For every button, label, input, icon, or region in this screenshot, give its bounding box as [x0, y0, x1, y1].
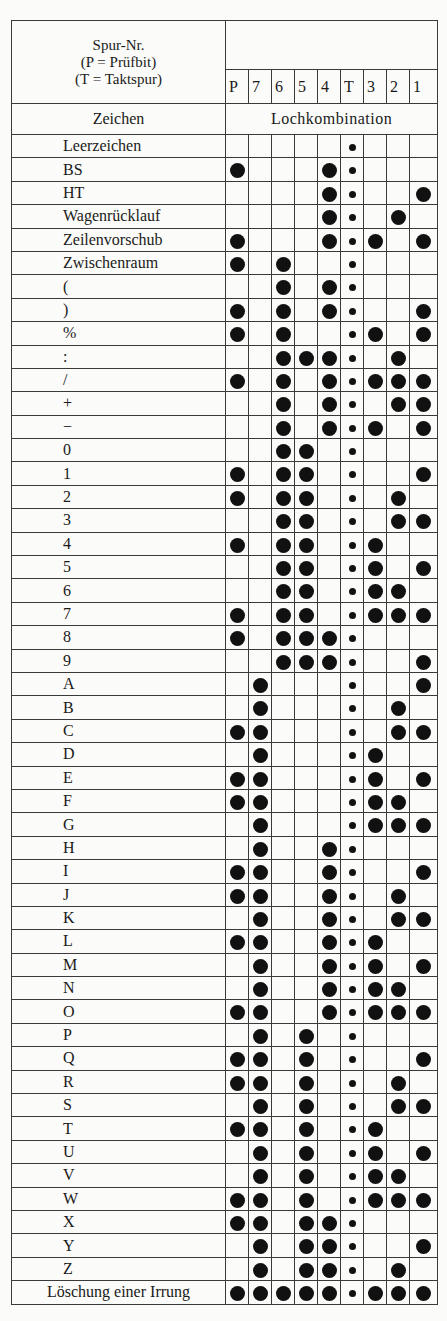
punched-hole-icon	[322, 304, 337, 319]
hole-cell-2	[387, 836, 410, 859]
feed-hole-icon	[349, 846, 356, 853]
hole-cell-p	[226, 860, 249, 883]
feed-hole-icon	[349, 448, 356, 455]
punched-hole-icon	[416, 1193, 431, 1208]
punched-hole-icon	[299, 444, 314, 459]
punched-hole-icon	[416, 397, 431, 412]
character-label: K	[12, 906, 226, 929]
feed-hole-icon	[349, 612, 356, 619]
punched-hole-icon	[253, 795, 268, 810]
punched-hole-icon	[368, 1169, 383, 1184]
hole-cell-7	[249, 1140, 272, 1163]
hole-cell-3	[364, 251, 387, 274]
hole-cell-5	[295, 1140, 318, 1163]
hole-cell-7	[249, 556, 272, 579]
hole-cell-p	[226, 532, 249, 555]
hole-cell-2	[387, 228, 410, 251]
track-header-p: P	[226, 70, 249, 104]
hole-cell-p	[226, 836, 249, 859]
punched-hole-icon	[416, 327, 431, 342]
hole-cell-5	[295, 556, 318, 579]
hole-cell-p	[226, 322, 249, 345]
hole-cell-p	[226, 1234, 249, 1257]
hole-cell-2	[387, 1281, 410, 1304]
feed-hole-icon	[349, 331, 356, 338]
punched-hole-icon	[253, 1193, 268, 1208]
hole-cell-1	[410, 1187, 438, 1210]
hole-cell-1	[410, 906, 438, 929]
feed-hole-icon	[349, 986, 356, 993]
hole-cell-6	[272, 579, 295, 602]
hole-cell-3	[364, 626, 387, 649]
table-row: 3	[12, 509, 438, 532]
hole-cell-t	[341, 1140, 364, 1163]
punched-hole-icon	[299, 608, 314, 623]
hole-cell-t	[341, 883, 364, 906]
hole-cell-7	[249, 1047, 272, 1070]
hole-cell-1	[410, 813, 438, 836]
hole-cell-5	[295, 1047, 318, 1070]
hole-cell-5	[295, 579, 318, 602]
table-row: 7	[12, 602, 438, 625]
hole-cell-6	[272, 626, 295, 649]
feed-hole-icon	[349, 705, 356, 712]
punched-hole-icon	[368, 1122, 383, 1137]
character-column-header: Zeichen	[12, 104, 226, 135]
character-label: 4	[12, 532, 226, 555]
punched-hole-icon	[416, 959, 431, 974]
punched-hole-icon	[391, 818, 406, 833]
hole-cell-3	[364, 509, 387, 532]
hole-cell-6	[272, 1047, 295, 1070]
punched-hole-icon	[253, 678, 268, 693]
feed-hole-icon	[349, 916, 356, 923]
hole-cell-4	[318, 1140, 341, 1163]
hole-cell-t	[341, 789, 364, 812]
track-header-2: 2	[387, 70, 410, 104]
table-row: D	[12, 743, 438, 766]
punched-hole-icon	[230, 1052, 245, 1067]
punched-hole-icon	[416, 865, 431, 880]
punched-hole-icon	[416, 234, 431, 249]
hole-cell-4	[318, 485, 341, 508]
character-label: G	[12, 813, 226, 836]
hole-cell-p	[226, 275, 249, 298]
hole-cell-1	[410, 181, 438, 204]
track-header-1: 1	[410, 70, 438, 104]
hole-cell-3	[364, 135, 387, 158]
feed-hole-icon	[349, 518, 356, 525]
hole-cell-3	[364, 1234, 387, 1257]
punched-hole-icon	[368, 374, 383, 389]
hole-cell-4	[318, 1187, 341, 1210]
hole-cell-2	[387, 205, 410, 228]
hole-cell-1	[410, 1094, 438, 1117]
hole-cell-p	[226, 1070, 249, 1093]
feed-hole-icon	[349, 284, 356, 291]
hole-cell-6	[272, 672, 295, 695]
hole-cell-p	[226, 743, 249, 766]
character-label: L	[12, 930, 226, 953]
hole-cell-6	[272, 368, 295, 391]
table-row: +	[12, 392, 438, 415]
punched-hole-icon	[322, 163, 337, 178]
hole-cell-1	[410, 602, 438, 625]
punched-hole-icon	[322, 912, 337, 927]
feed-hole-icon	[349, 191, 356, 198]
hole-cell-p	[226, 883, 249, 906]
punched-hole-icon	[391, 584, 406, 599]
hole-cell-3	[364, 462, 387, 485]
hole-cell-3	[364, 977, 387, 1000]
hole-cell-7	[249, 930, 272, 953]
feed-hole-icon	[349, 1009, 356, 1016]
hole-cell-3	[364, 789, 387, 812]
hole-cell-2	[387, 719, 410, 742]
hole-cell-t	[341, 743, 364, 766]
table-row: P	[12, 1023, 438, 1046]
punched-hole-icon	[391, 795, 406, 810]
hole-cell-7	[249, 509, 272, 532]
hole-cell-t	[341, 977, 364, 1000]
header-line-1: Spur-Nr.	[12, 37, 225, 54]
punched-hole-icon	[276, 538, 291, 553]
hole-cell-2	[387, 953, 410, 976]
hole-cell-2	[387, 789, 410, 812]
hole-cell-1	[410, 953, 438, 976]
